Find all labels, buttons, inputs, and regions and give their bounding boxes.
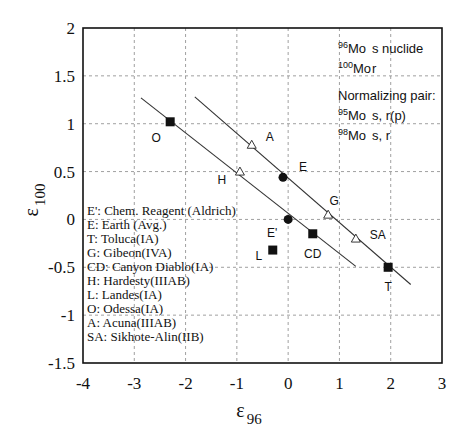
x-tick-label: 1 [335,374,344,393]
point-e: E [279,160,308,182]
x-tick-label: -3 [127,374,141,393]
point-label: L [255,249,262,263]
y-tick-label: 1 [67,115,76,134]
point-label: E [299,160,307,174]
legend: E': Chem. Reagent (Aldrich)E: Earth (Avg… [87,203,236,344]
y-tick-label: -1 [61,306,75,325]
triangle-marker-icon [351,234,360,242]
point-label: H [218,173,227,187]
legend-entry: A: Acuna(IIIAB) [87,315,176,330]
point-label: G [329,194,338,208]
y-tick-label: -0.5 [48,258,75,277]
x-tick-label: 0 [284,374,293,393]
x-tick-label: -2 [178,374,192,393]
nuclide-annotation: 98Mos, r [338,127,391,143]
point-g: G [324,194,339,219]
legend-entry: G: Gibeon(IVA) [87,245,172,260]
legend-entry: T: Toluca(IA) [87,231,158,246]
legend-entry: SA: Sikhote-Alin(IIB) [87,329,204,344]
nuclide-annotation: 96Mos nuclide [338,40,423,56]
point-label: O [152,131,161,145]
legend-entry: E: Earth (Avg.) [87,217,167,232]
trend-lines [141,97,411,285]
point-l: L [255,246,277,263]
y-tick-label: 2 [67,19,76,38]
y-tick-label: 0 [67,210,76,229]
point-sa: SA [351,228,386,243]
square-marker-icon [268,246,277,255]
nuclide-annotation: 100Mor [338,60,377,76]
point-label: T [384,280,392,294]
triangle-marker-icon [324,210,333,218]
square-marker-icon [308,229,317,238]
point-h: H [218,167,245,187]
legend-entry: O: Odessa(IA) [87,301,163,316]
y-tick-label: 0.5 [54,163,75,182]
circle-marker-icon [284,215,293,224]
nuclide-annotations: 96Mos nuclide100MorNormalizing pair:95Mo… [338,40,436,143]
point-label: A [266,130,274,144]
x-tick-label: -1 [230,374,244,393]
y-tick-labels: 21.510.50-0.5-1-1.5 [48,19,75,373]
point-o: O [152,117,175,145]
mo-isotope-scatter-chart: OAHEE'GCDSALT -4-3-2-10123 21.510.50-0.5… [0,0,465,448]
x-axis-label: ε96 [236,399,262,427]
x-tick-label: 3 [438,374,447,393]
normalizing-pair-title: Normalizing pair: [338,88,436,103]
legend-entry: E': Chem. Reagent (Aldrich) [87,203,236,218]
legend-entry: CD: Canyon Diablo(IA) [87,259,213,274]
point-cd: CD [304,229,322,260]
point-label: SA [370,228,386,242]
point-t: T [384,263,393,295]
point-label: E' [267,226,277,240]
point-label: CD [304,247,322,261]
x-tick-label: 2 [386,374,395,393]
circle-marker-icon [279,173,288,182]
x-tick-label: -4 [76,374,91,393]
y-axis-label: ε100 [20,184,48,217]
legend-entry: H: Hardesty(IIIAB) [87,273,190,288]
nuclide-annotation: 95Mos, r(p) [338,107,406,123]
x-tick-labels: -4-3-2-10123 [76,374,446,393]
square-marker-icon [166,117,175,126]
square-marker-icon [384,263,393,272]
upper-trend-line [195,97,411,285]
point-eprime: E' [267,215,293,241]
y-tick-label: -1.5 [48,354,75,373]
legend-entry: L: Landes(IA) [87,287,162,302]
point-a: A [247,130,274,149]
y-tick-label: 1.5 [54,67,75,86]
